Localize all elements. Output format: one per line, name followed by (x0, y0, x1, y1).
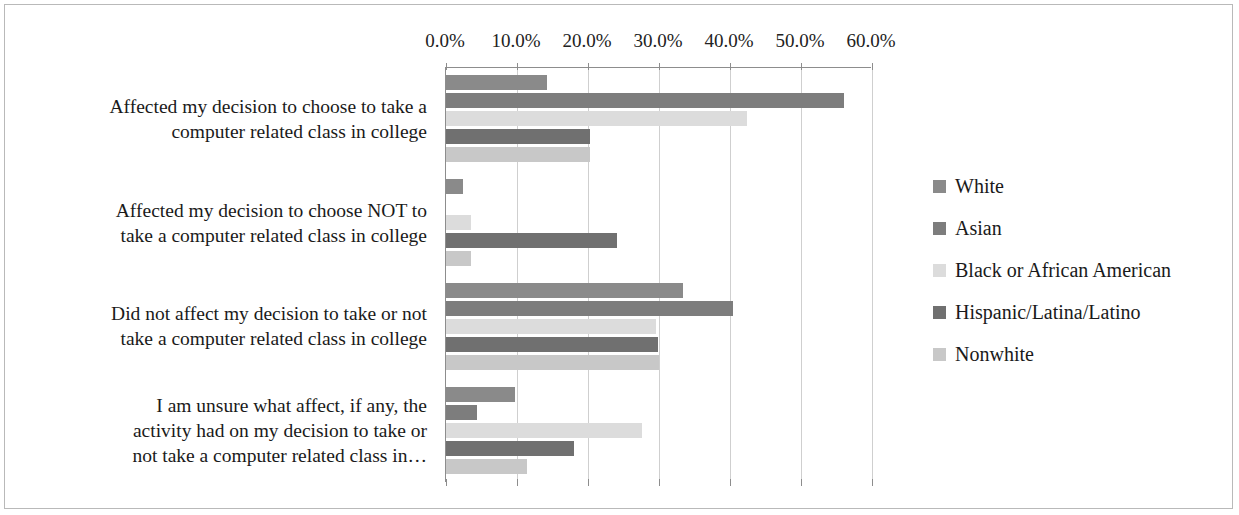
bar[interactable] (446, 179, 463, 194)
legend-label: Black or African American (955, 259, 1171, 281)
category-label-line: take a computer related class in college (19, 223, 427, 248)
x-axis-tick-label: 40.0% (704, 27, 753, 55)
legend-label: Asian (955, 217, 1002, 239)
bar[interactable] (446, 337, 658, 352)
bar[interactable] (446, 355, 659, 370)
chart-frame: 0.0%10.0%20.0%30.0%40.0%50.0%60.0% Affec… (4, 4, 1233, 509)
bar-group (446, 378, 871, 482)
bar[interactable] (446, 93, 844, 108)
x-axis-tick-label: 30.0% (633, 27, 682, 55)
legend-swatch-icon (933, 348, 946, 361)
legend-item[interactable]: White (933, 165, 1233, 207)
bar[interactable] (446, 459, 527, 474)
legend-label: Nonwhite (955, 343, 1034, 365)
legend-item[interactable]: Asian (933, 207, 1233, 249)
legend-item[interactable]: Hispanic/Latina/Latino (933, 291, 1233, 333)
chart-legend: WhiteAsianBlack or African AmericanHispa… (933, 165, 1233, 375)
legend-label: White (955, 175, 1004, 197)
category-label: Affected my decision to choose NOT totak… (19, 198, 427, 248)
bar-group (446, 171, 871, 275)
category-label-line: Affected my decision to choose NOT to (19, 198, 427, 223)
legend-swatch-icon (933, 180, 946, 193)
bar[interactable] (446, 233, 617, 248)
legend-swatch-icon (933, 222, 946, 235)
bar[interactable] (446, 215, 471, 230)
bar[interactable] (446, 441, 574, 456)
legend-item[interactable]: Black or African American (933, 249, 1233, 291)
bar-group (446, 67, 871, 171)
x-axis-tick-label: 60.0% (846, 27, 895, 55)
bar[interactable] (446, 147, 590, 162)
category-label-line: Did not affect my decision to take or no… (19, 301, 427, 326)
category-label-line: I am unsure what affect, if any, the (19, 393, 427, 418)
x-axis-tick-label: 0.0% (425, 27, 465, 55)
category-label-line: not take a computer related class in… (19, 443, 427, 468)
x-axis-tick-label: 10.0% (491, 27, 540, 55)
bar[interactable] (446, 405, 477, 420)
bar[interactable] (446, 129, 590, 144)
legend-label: Hispanic/Latina/Latino (955, 301, 1141, 323)
bar[interactable] (446, 301, 733, 316)
category-label-line: Affected my decision to choose to take a (19, 94, 427, 119)
category-label: Affected my decision to choose to take a… (19, 94, 427, 144)
axis-tick-mark (872, 479, 873, 486)
category-label-line: computer related class in college (19, 119, 427, 144)
category-axis-labels: Affected my decision to choose to take a… (19, 67, 437, 482)
bar-group (446, 275, 871, 379)
axis-tick-mark (872, 63, 873, 70)
category-label-line: activity had on my decision to take or (19, 418, 427, 443)
gridline (872, 67, 873, 482)
legend-item[interactable]: Nonwhite (933, 333, 1233, 375)
legend-swatch-icon (933, 264, 946, 277)
bar[interactable] (446, 319, 656, 334)
bar[interactable] (446, 251, 471, 266)
category-label: Did not affect my decision to take or no… (19, 301, 427, 351)
legend-swatch-icon (933, 306, 946, 319)
bar[interactable] (446, 423, 642, 438)
bar[interactable] (446, 111, 747, 126)
category-label: I am unsure what affect, if any, theacti… (19, 393, 427, 468)
category-label-line: take a computer related class in college (19, 326, 427, 351)
bar[interactable] (446, 387, 515, 402)
x-axis-tick-label: 20.0% (562, 27, 611, 55)
bar[interactable] (446, 75, 547, 90)
plot-area (445, 67, 871, 482)
x-axis-tick-labels: 0.0%10.0%20.0%30.0%40.0%50.0%60.0% (5, 27, 1232, 55)
x-axis-tick-label: 50.0% (775, 27, 824, 55)
bar[interactable] (446, 283, 683, 298)
